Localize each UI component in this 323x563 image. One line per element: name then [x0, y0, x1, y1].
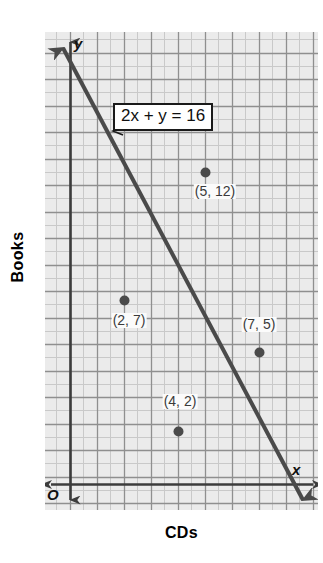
equation-callout: 2x + y = 16 [113, 103, 213, 131]
point-label-7-5: (7, 5) [242, 317, 277, 332]
coordinate-graph-figure: 2x + y = 16 (5, 12) (2, 7) (7, 5) (4, 2)… [0, 0, 323, 563]
point-label-4-2: (4, 2) [163, 394, 198, 409]
x-axis-letter-label: x [292, 462, 300, 477]
equation-variable-y: y [158, 106, 167, 125]
data-point [201, 168, 211, 178]
equation-equals: = [167, 106, 186, 125]
equation-variable-x: x [130, 106, 139, 125]
x-axis-title: CDs [45, 524, 318, 542]
data-point [120, 296, 130, 306]
data-point [255, 348, 265, 358]
point-label-2-7: (2, 7) [112, 313, 147, 328]
y-axis-letter-label: y [74, 36, 82, 51]
point-label-5-12: (5, 12) [194, 184, 236, 199]
y-axis-title: Books [9, 217, 27, 297]
data-point [174, 427, 184, 437]
equation-box: 2x + y = 16 [113, 103, 213, 131]
equation-constant: 16 [186, 106, 205, 125]
plot-area: 2x + y = 16 (5, 12) (2, 7) (7, 5) (4, 2) [45, 32, 318, 510]
equation-plus: + [139, 106, 158, 125]
origin-label: O [47, 487, 59, 502]
